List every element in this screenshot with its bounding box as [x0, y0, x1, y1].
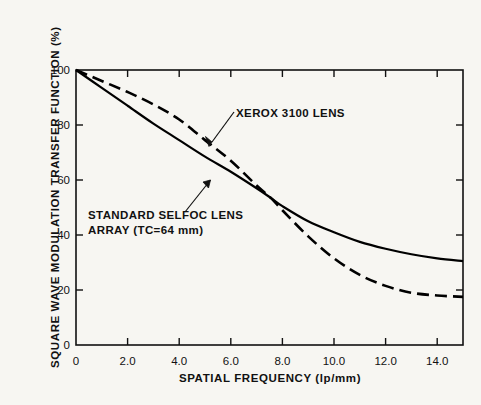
series-curves	[76, 70, 463, 297]
x-axis-ticks-top	[128, 70, 438, 77]
series-curve-2	[76, 70, 463, 297]
y-axis-ticks-left	[76, 125, 83, 290]
mtf-chart-figure: SQUARE WAVE MODULATION TRANSFER FUNCTION…	[0, 0, 481, 405]
x-tick-label: 4.0	[171, 355, 187, 367]
y-tick-label: 60	[28, 174, 70, 186]
x-tick-label: 12.0	[374, 355, 396, 367]
x-tick-label: 10.0	[323, 355, 345, 367]
x-tick-label: 8.0	[274, 355, 290, 367]
series-curve-1	[76, 70, 463, 261]
x-tick-label: 14.0	[426, 355, 448, 367]
y-tick-label: 40	[28, 229, 70, 241]
x-tick-label: 6.0	[223, 355, 239, 367]
y-axis-ticks-right	[456, 125, 463, 290]
arrowhead-selfoc	[203, 180, 211, 188]
y-tick-label: 20	[28, 284, 70, 296]
annotation-leader-lines	[185, 112, 234, 212]
y-tick-label: 80	[28, 119, 70, 131]
x-tick-label: 0	[73, 355, 79, 367]
x-tick-label: 2.0	[120, 355, 136, 367]
plot-area	[0, 0, 481, 405]
y-tick-label: 0	[28, 339, 70, 351]
y-tick-label: 100	[28, 64, 70, 76]
leader-line-xerox	[212, 112, 234, 142]
x-axis-ticks-bottom	[128, 338, 438, 345]
